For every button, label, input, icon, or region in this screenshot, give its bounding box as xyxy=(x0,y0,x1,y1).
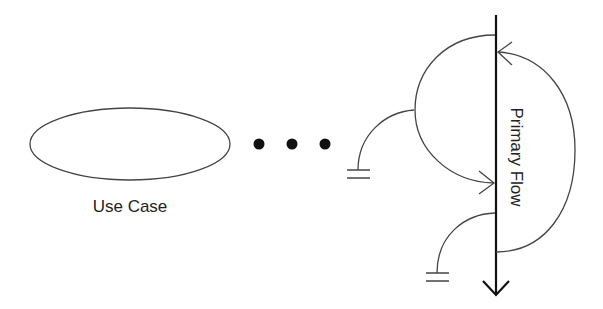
use-case-flow-diagram: Use Case Primary Flow xyxy=(0,0,603,309)
exception-branch-upper xyxy=(347,110,414,178)
dot-3 xyxy=(320,139,331,150)
use-case-ellipse xyxy=(30,108,230,180)
ellipsis-dots xyxy=(254,139,331,150)
use-case-label: Use Case xyxy=(93,197,168,216)
dot-2 xyxy=(287,139,298,150)
exception-branch-lower xyxy=(426,213,495,281)
alternate-flow-left-loop xyxy=(415,35,495,194)
primary-flow-label: Primary Flow xyxy=(507,107,526,207)
dot-1 xyxy=(254,139,265,150)
primary-flow-line xyxy=(483,15,509,295)
